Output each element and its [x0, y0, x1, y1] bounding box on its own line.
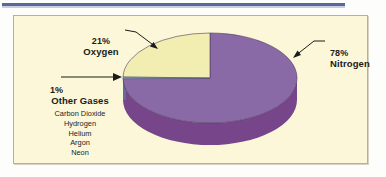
pie-slice-oxygen: [123, 33, 210, 78]
page-root: 21% Oxygen 78% Nitrogen 1% Other Gases C…: [0, 0, 386, 177]
other-gas-item: Carbon Dioxide: [28, 109, 132, 119]
other-gases-list: Carbon Dioxide Hydrogen Helium Argon Neo…: [28, 109, 132, 159]
callout-nitrogen-name: Nitrogen: [330, 59, 386, 70]
figure-panel: 21% Oxygen 78% Nitrogen 1% Other Gases C…: [13, 15, 368, 164]
callout-oxygen-name: Oxygen: [66, 47, 136, 58]
leader-other-gases: [61, 73, 122, 81]
callout-oxygen: 21% Oxygen: [66, 36, 136, 58]
top-rule-shadow: [2, 6, 345, 8]
leader-nitrogen: [293, 41, 325, 58]
other-gas-item: Helium: [28, 129, 132, 139]
callout-other-gases: 1% Other Gases Carbon Dioxide Hydrogen H…: [28, 85, 132, 158]
other-gas-item: Hydrogen: [28, 119, 132, 129]
callout-nitrogen: 78% Nitrogen: [330, 48, 386, 70]
callout-other-percent: 1%: [50, 85, 132, 95]
other-gas-item: Neon: [28, 148, 132, 158]
callout-nitrogen-percent: 78%: [330, 48, 386, 58]
callout-other-name: Other Gases: [28, 96, 132, 107]
other-gas-item: Argon: [28, 138, 132, 148]
callout-oxygen-percent: 21%: [66, 36, 136, 46]
